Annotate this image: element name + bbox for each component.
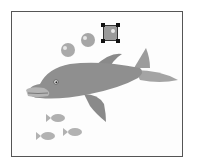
clipart-picture[interactable] — [0, 0, 197, 167]
resize-handle-top-right[interactable] — [116, 23, 120, 27]
resize-handle-bottom-left[interactable] — [101, 39, 105, 43]
fish-icon — [36, 132, 55, 140]
bubble-icon — [81, 33, 95, 47]
resize-handle-bottom-right[interactable] — [116, 39, 120, 43]
resize-handle-top-left[interactable] — [101, 23, 105, 27]
fish-icon — [46, 114, 65, 122]
bubble-icon — [61, 43, 75, 57]
fish-icon — [63, 128, 82, 136]
